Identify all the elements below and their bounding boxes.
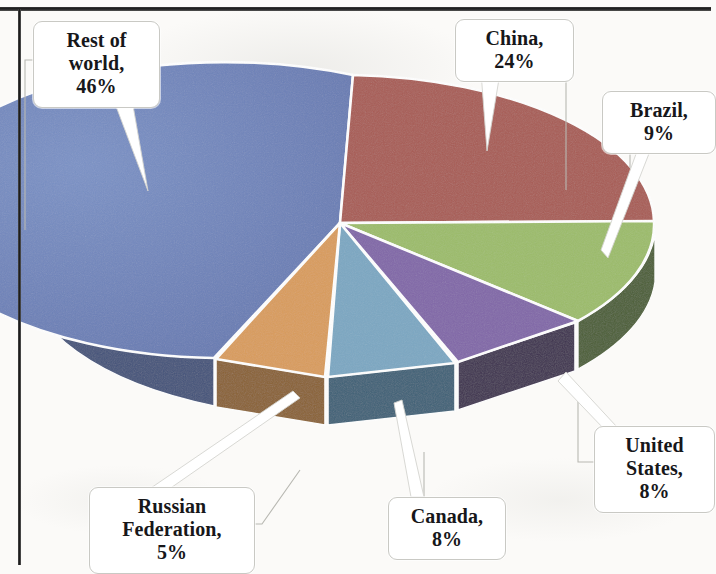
callout-united-states-line3: 8% [604,480,705,503]
callout-united-states: United States, 8% [594,426,715,513]
callout-china-line2: 24% [465,50,564,73]
callout-united-states-line1: United [604,434,705,457]
callout-russian-federation-line2: Federation, [99,518,245,541]
callout-russian-federation-line3: 5% [99,541,245,564]
pie-top-surface [0,62,654,377]
callout-brazil-line1: Brazil, [612,99,706,122]
callout-canada-line1: Canada, [398,505,496,528]
callout-canada-line2: 8% [398,528,496,551]
callout-russian-federation-line1: Russian [99,495,245,518]
callout-rest-of-world-line1: Rest of [43,29,150,52]
callout-china: China, 24% [455,19,574,82]
tail-united-states [558,372,617,430]
callout-rest-of-world-line2: world, [43,52,150,75]
callout-united-states-line2: States, [604,457,705,480]
callout-canada: Canada, 8% [388,497,506,560]
callout-rest-of-world: Rest of world, 46% [33,21,160,108]
callout-rest-of-world-line3: 46% [43,75,150,98]
callout-brazil-line2: 9% [612,122,706,145]
callout-russian-federation: Russian Federation, 5% [89,487,255,574]
callout-china-line1: China, [465,27,564,50]
callout-brazil: Brazil, 9% [602,91,716,154]
